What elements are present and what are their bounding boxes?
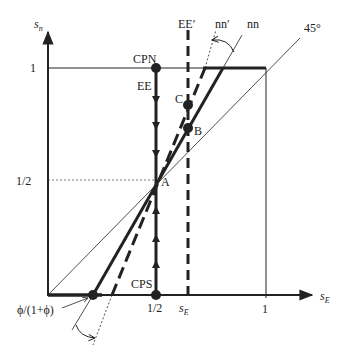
label-b: B (194, 124, 202, 138)
label-ee: EE (137, 79, 152, 93)
rotation-arrow-top (212, 40, 234, 52)
point-b (183, 123, 193, 133)
label-nn-prime: nn′ (215, 17, 230, 31)
label-nn: nn (247, 17, 259, 31)
rotation-arrow-bottom (76, 325, 95, 338)
point-c (183, 100, 193, 110)
label-phi: ϕ/(1+ϕ) (17, 303, 54, 317)
x-tick-se-prime: sE (179, 301, 189, 317)
label-45deg: 45° (304, 21, 321, 35)
nn-line-ext-top (223, 35, 242, 68)
nn-line (93, 68, 223, 295)
label-cpn: CPN (133, 52, 157, 66)
y-axis-label: sn (34, 17, 43, 33)
point-phi (88, 290, 98, 300)
label-cps: CPS (131, 277, 152, 291)
y-tick-half: 1/2 (16, 174, 31, 188)
nn-prime-ext-bottom (93, 295, 112, 345)
label-a: A (161, 175, 170, 189)
x-axis-label: sE (320, 289, 330, 305)
line-45deg (48, 38, 300, 295)
point-cps (151, 290, 161, 300)
nn-prime-ext-top (205, 30, 216, 68)
label-ee-prime: EE′ (178, 17, 196, 31)
label-c: C (175, 92, 183, 106)
phi-pointer (62, 298, 88, 308)
x-tick-half: 1/2 (147, 301, 162, 315)
x-tick-1: 1 (262, 302, 268, 316)
y-tick-1: 1 (30, 61, 36, 75)
diagram: sn sE 1 1/2 1/2 1 sE CPN EE EE′ nn′ nn 4… (0, 0, 349, 361)
phase-diagram: sn sE 1 1/2 1/2 1 sE CPN EE EE′ nn′ nn 4… (0, 0, 349, 361)
